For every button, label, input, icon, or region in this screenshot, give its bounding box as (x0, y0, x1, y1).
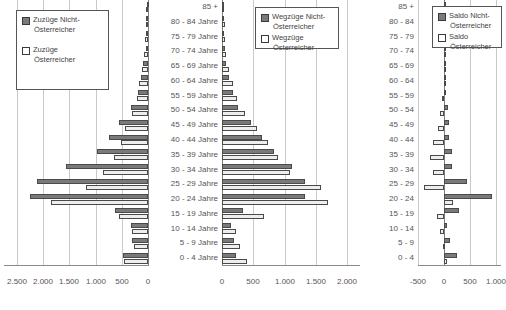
age-label-saldo: 80 - 84 (389, 18, 414, 26)
bar-nicht-oesterreicher (444, 179, 467, 184)
bar-row (4, 192, 148, 207)
bar-oesterreicher (222, 140, 268, 145)
bar-nicht-oesterreicher (222, 120, 251, 125)
age-label: 60 - 64 Jahre (171, 77, 218, 85)
baseline (222, 265, 360, 266)
bar-oesterreicher (222, 259, 247, 264)
age-label: 20 - 24 Jahre (171, 195, 218, 203)
bar-oesterreicher (444, 52, 446, 57)
x-tick-label: 1.000 (486, 277, 506, 286)
bar-row (222, 89, 360, 104)
age-label-saldo: 85 + (398, 3, 414, 11)
legend-label: Wegzüge Nicht-Österreicher (272, 12, 325, 32)
bar-nicht-oesterreicher (115, 208, 148, 213)
age-category-labels: 85 +80 - 84 Jahre75 - 79 Jahre70 - 74 Ja… (148, 0, 220, 288)
legend-label: SaldoÖsterreicher (449, 32, 491, 52)
x-tick-label: 1.000 (86, 277, 106, 286)
bar-nicht-oesterreicher (141, 75, 148, 80)
bar-oesterreicher (440, 229, 444, 234)
bar-nicht-oesterreicher (222, 179, 305, 184)
age-label-saldo: 10 - 14 (389, 225, 414, 233)
age-label: 30 - 34 Jahre (171, 166, 218, 174)
x-tick-label: 500 (463, 277, 476, 286)
bar-nicht-oesterreicher (444, 238, 450, 243)
bar-nicht-oesterreicher (444, 120, 449, 125)
bar-oesterreicher (222, 170, 290, 175)
age-label: 25 - 29 Jahre (171, 180, 218, 188)
bar-nicht-oesterreicher (123, 253, 148, 258)
legend-spacer (22, 36, 103, 45)
bar-nicht-oesterreicher (97, 149, 148, 154)
bar-nicht-oesterreicher (131, 223, 148, 228)
bar-oesterreicher (444, 259, 447, 264)
bar-oesterreicher (222, 52, 226, 57)
legend-wegzuege: Wegzüge Nicht-Österreicher WegzügeÖsterr… (255, 7, 339, 49)
age-label-saldo: 15 - 19 (389, 210, 414, 218)
bar-row (222, 163, 360, 178)
bar-row (418, 192, 501, 207)
x-tick-label: 2.500 (7, 277, 27, 286)
bar-nicht-oesterreicher (444, 164, 452, 169)
bar-oesterreicher (438, 126, 444, 131)
bar-oesterreicher (125, 126, 148, 131)
bar-nicht-oesterreicher (222, 75, 229, 80)
bar-row (418, 74, 501, 89)
bar-row (222, 59, 360, 74)
x-axis-ticks-zuzuege: 2.5002.0001.5001.0005000 (4, 268, 148, 288)
bar-oesterreicher (222, 111, 245, 116)
age-label-saldo: 45 - 49 (389, 121, 414, 129)
bar-nicht-oesterreicher (222, 16, 224, 21)
bar-row (418, 59, 501, 74)
bar-nicht-oesterreicher (222, 61, 226, 66)
bar-oesterreicher (437, 214, 443, 219)
bar-row (418, 133, 501, 148)
bar-oesterreicher (440, 111, 444, 116)
bar-oesterreicher (222, 81, 233, 86)
bar-oesterreicher (444, 67, 446, 72)
bar-row (4, 118, 148, 133)
bar-oesterreicher (222, 37, 225, 42)
bar-nicht-oesterreicher (131, 105, 148, 110)
bar-oesterreicher (222, 155, 278, 160)
bar-oesterreicher (222, 200, 328, 205)
age-label: 50 - 54 Jahre (171, 106, 218, 114)
bar-nicht-oesterreicher (222, 90, 233, 95)
age-category-labels-saldo: 85 +80 - 8475 - 7970 - 7465 - 6960 - 645… (383, 0, 416, 288)
legend-swatch-dark-icon (261, 14, 269, 22)
bar-row (4, 163, 148, 178)
age-label-saldo: 40 - 44 (389, 136, 414, 144)
bar-nicht-oesterreicher (222, 253, 236, 258)
bar-row (222, 236, 360, 251)
bar-row (418, 236, 501, 251)
x-tick-label: 2.000 (33, 277, 53, 286)
age-label-saldo: 70 - 74 (389, 47, 414, 55)
legend-item: Wegzüge Nicht-Österreicher (261, 12, 333, 32)
bar-nicht-oesterreicher (222, 2, 224, 7)
bar-row (4, 89, 148, 104)
bar-row (4, 177, 148, 192)
x-axis-ticks-saldo: -50005001.000 (418, 268, 501, 288)
bar-oesterreicher (443, 244, 445, 249)
bar-oesterreicher (222, 22, 225, 27)
bar-row (222, 74, 360, 89)
bar-row (418, 103, 501, 118)
x-tick-label: 2.000 (337, 277, 357, 286)
x-tick-label: 1.500 (59, 277, 79, 286)
bar-row (418, 118, 501, 133)
age-label-saldo: 55 - 59 (389, 92, 414, 100)
age-label-saldo: 20 - 24 (389, 195, 414, 203)
age-label: 45 - 49 Jahre (171, 121, 218, 129)
bar-oesterreicher (121, 140, 148, 145)
age-label-saldo: 65 - 69 (389, 62, 414, 70)
age-label: 85 + (202, 3, 218, 11)
bar-oesterreicher (430, 155, 443, 160)
age-label: 40 - 44 Jahre (171, 136, 218, 144)
x-tick-label: 1.000 (275, 277, 295, 286)
x-tick-label: 500 (246, 277, 259, 286)
legend-saldo: Saldo Nicht-Österreicher SaldoÖsterreich… (432, 6, 502, 48)
legend-swatch-dark-icon (22, 17, 30, 25)
bar-nicht-oesterreicher (222, 149, 274, 154)
bar-nicht-oesterreicher (444, 208, 459, 213)
legend-item: ZuzügeÖsterreicher (22, 45, 103, 65)
age-label-saldo: 50 - 54 (389, 106, 414, 114)
